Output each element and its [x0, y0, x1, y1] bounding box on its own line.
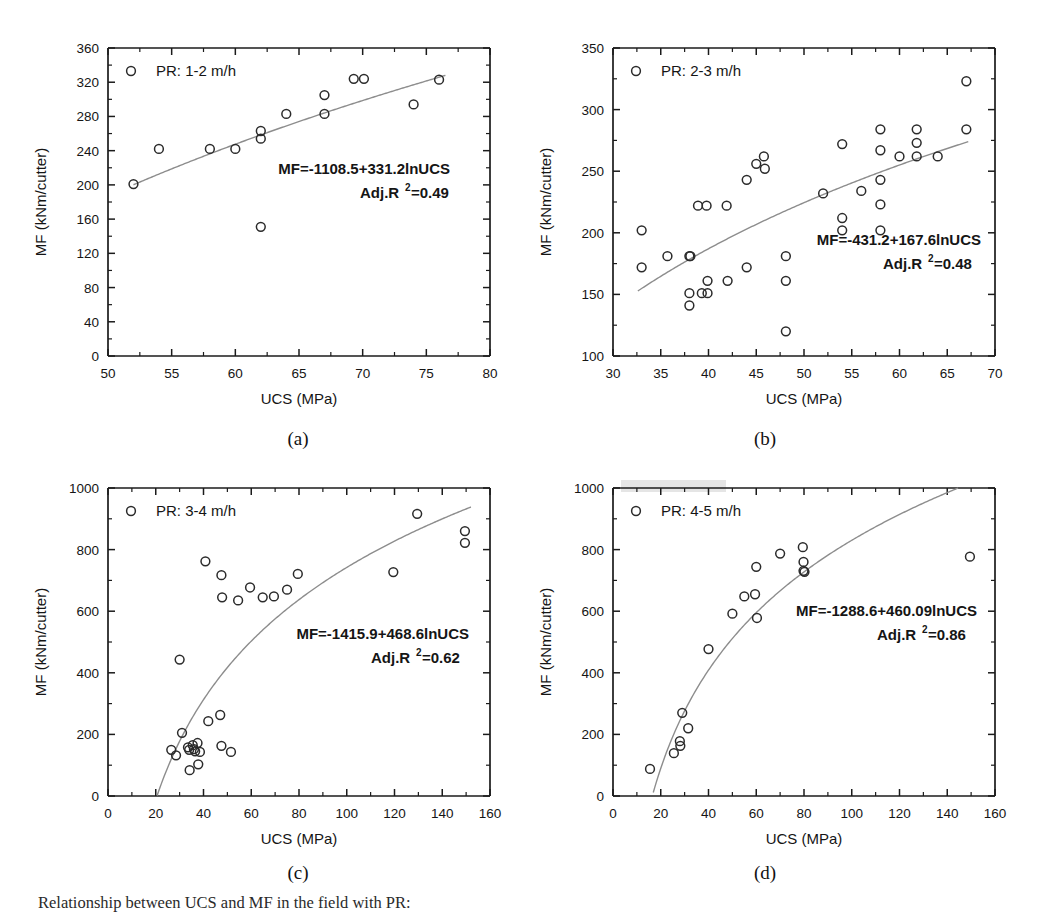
data-point	[227, 748, 236, 757]
data-point	[256, 222, 265, 231]
data-point	[966, 552, 975, 561]
panel-c-xtick: 160	[479, 806, 502, 821]
data-point	[270, 592, 279, 601]
panel-c: 02040608010012014016002004006008001000 P…	[20, 458, 520, 858]
data-point	[876, 200, 885, 209]
panel-a-caption: (a)	[258, 428, 338, 450]
panel-c-caption: (c)	[258, 862, 338, 884]
figure-caption: Relationship between UCS and MF in the f…	[38, 892, 1028, 913]
data-point	[933, 152, 942, 161]
panel-d-xlabel: UCS (MPa)	[766, 830, 843, 847]
panel-d-xtick: 120	[888, 806, 911, 821]
data-point	[413, 509, 422, 518]
data-point	[838, 140, 847, 149]
panel-c-ylabel: MF (kNm/cutter)	[32, 588, 49, 696]
panel-c-ytick: 400	[76, 666, 99, 681]
data-point	[283, 585, 292, 594]
panel-d-xtick: 40	[701, 806, 716, 821]
panel-c-xtick: 60	[244, 806, 259, 821]
panel-c-plot: 02040608010012014016002004006008001000 P…	[20, 458, 520, 858]
panel-a-xtick: 50	[100, 366, 115, 381]
panel-c-legend-marker	[127, 507, 136, 516]
panel-c-xtick: 100	[335, 806, 358, 821]
data-point	[663, 252, 672, 261]
panel-d: 02040608010012014016002004006008001000 P…	[525, 458, 1025, 858]
data-point	[962, 125, 971, 134]
panel-d-data-points	[646, 543, 975, 774]
panel-d-xtick: 80	[796, 806, 811, 821]
data-point	[912, 125, 921, 134]
panel-a-legend-marker	[127, 67, 136, 76]
data-point	[684, 724, 693, 733]
data-point	[703, 276, 712, 285]
data-point	[282, 109, 291, 118]
panel-b-ytick: 300	[581, 103, 604, 118]
panel-c-legend-label: PR: 3-4 m/h	[156, 502, 236, 519]
panel-a-ytick: 320	[76, 75, 99, 90]
panel-c-data-points	[167, 509, 469, 774]
panel-c-equation: MF=-1415.9+468.6lnUCS	[296, 625, 469, 642]
data-point	[781, 276, 790, 285]
data-point	[409, 100, 418, 109]
panel-d-ytick: 0	[596, 789, 604, 804]
data-point	[702, 201, 711, 210]
panel-d-xtick: 100	[840, 806, 863, 821]
panel-c-ytick: 200	[76, 727, 99, 742]
panel-d-ytick: 1000	[574, 481, 604, 496]
panel-a-ytick: 200	[76, 178, 99, 193]
panel-c-ytick: 0	[91, 789, 99, 804]
data-point	[895, 152, 904, 161]
panel-d-caption: (d)	[725, 862, 805, 884]
panel-d-plot: 02040608010012014016002004006008001000 P…	[525, 458, 1025, 858]
panel-a-equation: MF=-1108.5+331.2lnUCS	[278, 160, 450, 177]
panel-a-xtick: 70	[355, 366, 370, 381]
panel-b-ytick: 100	[581, 349, 604, 364]
panel-b-r2-value: =0.48	[934, 255, 972, 272]
panel-a: 5055606570758004080120160200240280320360…	[20, 18, 520, 418]
panel-c-xtick: 120	[383, 806, 406, 821]
data-point	[234, 596, 243, 605]
panel-a-xtick: 75	[419, 366, 434, 381]
data-point	[258, 593, 267, 602]
data-point	[205, 145, 214, 154]
data-point	[246, 583, 255, 592]
data-point	[389, 568, 398, 577]
panel-a-data-points	[129, 74, 443, 231]
data-point	[876, 146, 885, 155]
panel-d-ytick: 600	[581, 604, 604, 619]
data-point	[669, 749, 678, 758]
data-point	[204, 717, 213, 726]
panel-c-ytick: 600	[76, 604, 99, 619]
data-point	[876, 175, 885, 184]
panel-a-r2: Adj.R 2 =0.49	[360, 182, 449, 201]
panel-a-ticks: 5055606570758004080120160200240280320360	[76, 41, 497, 381]
panel-a-xlabel: UCS (MPa)	[261, 390, 338, 407]
panel-a-ytick: 360	[76, 41, 99, 56]
panel-a-ytick: 80	[84, 281, 99, 296]
data-point	[753, 614, 762, 623]
panel-a-xtick: 55	[164, 366, 179, 381]
panel-b-xtick: 50	[796, 366, 811, 381]
data-point	[857, 187, 866, 196]
data-point	[293, 570, 302, 579]
data-point	[185, 766, 194, 775]
figure-panel-grid: 5055606570758004080120160200240280320360…	[0, 0, 1049, 916]
panel-c-xlabel: UCS (MPa)	[261, 830, 338, 847]
panel-d-r2-prefix: Adj.R	[877, 626, 916, 643]
panel-a-plot: 5055606570758004080120160200240280320360…	[20, 18, 520, 418]
panel-b-r2-prefix: Adj.R	[883, 255, 922, 272]
panel-a-xtick: 80	[482, 366, 497, 381]
panel-c-ytick: 1000	[69, 481, 99, 496]
panel-d-equation: MF=-1288.6+460.09lnUCS	[796, 602, 977, 619]
panel-c-xtick: 80	[291, 806, 306, 821]
panel-d-xtick: 0	[609, 806, 617, 821]
data-point	[461, 527, 470, 536]
panel-a-ytick: 280	[76, 109, 99, 124]
data-point	[201, 557, 210, 566]
panel-b-xtick: 60	[892, 366, 907, 381]
panel-b-ylabel: MF (kNm/cutter)	[537, 148, 554, 256]
data-point	[217, 571, 226, 580]
data-point	[646, 765, 655, 774]
data-point	[722, 201, 731, 210]
data-point	[461, 538, 470, 547]
